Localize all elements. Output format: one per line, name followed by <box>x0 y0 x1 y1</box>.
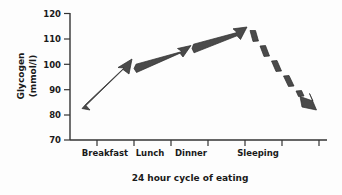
y-tick-label-100: 100 <box>43 60 61 70</box>
data-arrow-segment-4-dashed <box>250 31 317 111</box>
x-label-breakfast: Breakfast <box>82 148 128 158</box>
chart-canvas: Glycogen (mmol/l) 120 110 100 90 80 70 <box>0 0 342 195</box>
x-axis-ticks <box>97 140 319 146</box>
y-axis-label-line1: Glycogen <box>16 53 26 100</box>
data-arrow-segment-3 <box>192 27 247 53</box>
y-axis-label: Glycogen (mmol/l) <box>16 53 38 100</box>
y-axis-ticks: 120 110 100 90 80 70 <box>43 9 70 146</box>
x-axis-title: 24 hour cycle of eating <box>132 173 249 183</box>
y-tick-label-70: 70 <box>49 135 61 145</box>
x-axis-category-labels: Breakfast Lunch Dinner Sleeping <box>82 148 279 158</box>
glycogen-chart: Glycogen (mmol/l) 120 110 100 90 80 70 <box>0 0 342 195</box>
x-label-sleeping: Sleeping <box>237 148 279 158</box>
x-label-dinner: Dinner <box>175 148 208 158</box>
y-tick-label-110: 110 <box>43 34 61 44</box>
data-arrow-segment-2 <box>134 46 191 73</box>
x-label-lunch: Lunch <box>136 148 165 158</box>
y-tick-label-120: 120 <box>43 9 61 19</box>
y-tick-label-90: 90 <box>49 85 61 95</box>
y-tick-label-80: 80 <box>49 110 61 120</box>
data-arrow-segment-1 <box>82 59 132 110</box>
y-axis-label-line2: (mmol/l) <box>28 55 38 98</box>
